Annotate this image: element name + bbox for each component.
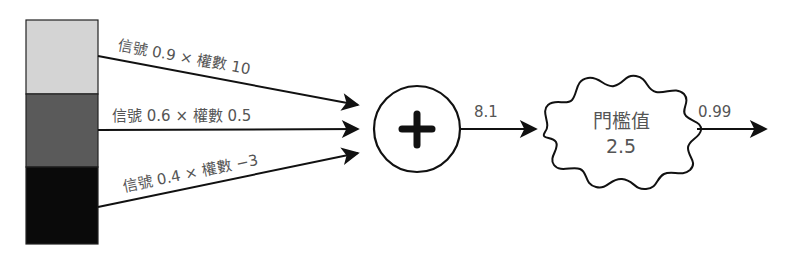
sum-node <box>374 86 460 172</box>
threshold-node: 門檻值 2.5 <box>544 76 701 189</box>
input-arrow-2 <box>98 129 358 130</box>
input-label-2: 信號 0.6 × 權數 0.5 <box>112 107 251 125</box>
input-signal-stack <box>26 20 98 244</box>
output-value: 0.99 <box>698 103 731 121</box>
input-signal-3-block <box>26 167 98 244</box>
input-signal-1-block <box>26 20 98 94</box>
threshold-value: 2.5 <box>606 135 636 157</box>
sum-output-value: 8.1 <box>474 103 498 121</box>
neuron-diagram: 信號 0.9 × 權數 10 信號 0.6 × 權數 0.5 信號 0.4 × … <box>0 0 787 262</box>
input-signal-2-block <box>26 94 98 167</box>
threshold-label: 門檻值 <box>593 110 650 132</box>
input-label-3: 信號 0.4 × 權數 −3 <box>121 151 259 196</box>
